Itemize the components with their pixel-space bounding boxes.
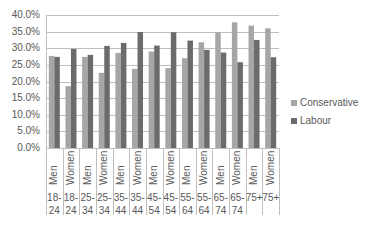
bar-labour [54,57,60,148]
bar-labour [138,32,144,148]
x-label-age: 24 [63,205,80,216]
x-label-gender: Men [148,166,159,185]
bar-labour [71,49,77,148]
bar-labour [187,41,193,148]
x-label-age: 24 [46,205,63,216]
x-label-gender: Women [165,151,176,185]
x-label-gender: Women [98,151,109,185]
legend-swatch-conservative [291,100,297,106]
y-tick-label: 25.0% [0,60,40,70]
bar-conservative [249,26,255,148]
bar-conservative [115,53,121,148]
y-tick-label: 40.0% [0,10,40,20]
x-label-age: 55- [179,192,196,203]
y-tick-label: 10.0% [0,110,40,120]
legend-label-conservative: Conservative [300,97,358,108]
bar-labour [254,40,259,148]
bar-conservative [165,68,171,148]
x-label-gender: Women [198,151,209,185]
x-label-age: 25- [96,192,113,203]
x-label-age: 65- [229,192,246,203]
bar-labour [171,32,177,148]
bar-labour [271,57,277,148]
bar-labour [154,46,160,148]
bar-conservative [82,57,88,148]
bar-labour [237,62,243,148]
bar-labour [221,53,227,148]
x-label-age: 65- [212,192,229,203]
x-label-age: 55- [196,192,213,203]
x-label-age: 44 [129,205,146,216]
bar-labour [88,55,94,148]
x-label-age: 25- [79,192,96,203]
x-label-age: 35- [113,192,130,203]
x-label-gender: Men [181,166,192,185]
x-label-age: 18- [63,192,80,203]
legend-swatch-labour [291,118,297,124]
x-label-gender: Women [132,151,143,185]
bar-conservative [232,22,238,148]
x-label-gender: Men [48,166,59,185]
x-label-gender: Women [231,151,242,185]
chart: 0.0%5.0%10.0%15.0%20.0%25.0%30.0%35.0%40… [0,0,367,232]
x-label-gender: Men [215,166,226,185]
legend-item-conservative: Conservative [291,97,358,108]
y-tick-label: 5.0% [0,126,40,136]
x-label-gender: Men [248,166,259,185]
x-label-age: 34 [96,205,113,216]
bar-conservative [132,69,138,148]
x-label-age: 45- [163,192,180,203]
x-label-age: 64 [179,205,196,216]
y-tick-label: 0.0% [0,143,40,153]
x-label-age: 35- [129,192,146,203]
y-tick-label: 35.0% [0,27,40,37]
x-label-gender: Women [65,151,76,185]
legend-item-labour: Labour [291,115,331,126]
x-label-age: 18- [46,192,63,203]
x-label-gender: Men [82,166,93,185]
y-tick-label: 20.0% [0,77,40,87]
bar-conservative [99,73,105,148]
x-label-age: 45- [146,192,163,203]
bar-conservative [265,28,271,148]
x-label-age: 44 [113,205,130,216]
bar-conservative [49,56,55,148]
x-label-gender: Women [265,151,276,185]
legend-label-labour: Labour [300,115,331,126]
x-label-age: 34 [79,205,96,216]
x-label-age: 54 [163,205,180,216]
bar-conservative [182,58,188,148]
x-label-age: 75+ [246,192,263,203]
x-label-age: 74 [212,205,229,216]
x-label-age: 75+ [262,192,279,203]
bar-conservative [199,42,205,148]
x-label-age: 74 [229,205,246,216]
bar-labour [104,46,110,148]
bar-conservative [215,32,221,148]
bar-conservative [149,52,155,148]
x-label-age: 54 [146,205,163,216]
y-tick-label: 30.0% [0,43,40,53]
x-label-gender: Men [115,166,126,185]
bar-labour [121,43,127,148]
bar-conservative [65,86,71,148]
x-label-age: 64 [196,205,213,216]
y-tick-label: 15.0% [0,93,40,103]
bar-labour [204,50,210,148]
